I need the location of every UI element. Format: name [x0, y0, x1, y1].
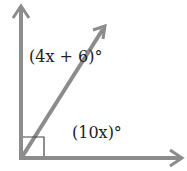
- angle-diagram: (4x + 6)° (10x)°: [0, 0, 187, 171]
- upper-angle-label: (4x + 6)°: [29, 49, 102, 65]
- vertical-ray: [13, 6, 29, 158]
- lower-angle-label: (10x)°: [72, 125, 122, 141]
- angle-diagram-svg: [0, 0, 187, 171]
